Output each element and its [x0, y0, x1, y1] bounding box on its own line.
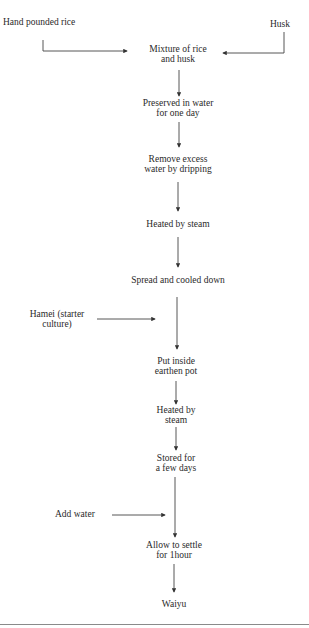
- step-heated2-line2: steam: [136, 415, 216, 425]
- step-mixture-line2: and husk: [128, 54, 228, 64]
- input-hand-pounded-rice: Hand pounded rice: [3, 17, 75, 27]
- step-mixture-line1: Mixture of rice: [128, 44, 228, 54]
- step-stored-line2: a few days: [136, 463, 216, 473]
- step-waiyu-line1: Waiyu: [144, 599, 204, 609]
- step-stored-line1: Stored for: [136, 453, 216, 463]
- step-heated-by-steam-1: Heated by steam: [118, 219, 238, 229]
- step-settle-line1: Allow to settle: [129, 540, 219, 550]
- step-put-inside-pot: Put inside earthen pot: [136, 356, 216, 376]
- step-spread-line1: Spread and cooled down: [113, 275, 243, 285]
- step-waiyu: Waiyu: [144, 599, 204, 609]
- step-remove-water: Remove excess water by dripping: [128, 154, 228, 174]
- arrow-husk-to-mixture: [223, 32, 284, 53]
- step-spread-cooled: Spread and cooled down: [113, 275, 243, 285]
- input-hamei-line2: culture): [22, 319, 92, 329]
- step-heated2-line1: Heated by: [136, 405, 216, 415]
- step-remove-water-line2: water by dripping: [128, 164, 228, 174]
- step-put-pot-line2: earthen pot: [136, 366, 216, 376]
- input-hamei-line1: Hamei (starter: [22, 309, 92, 319]
- step-allow-settle: Allow to settle for 1hour: [129, 540, 219, 560]
- step-put-pot-line1: Put inside: [136, 356, 216, 366]
- step-mixture: Mixture of rice and husk: [128, 44, 228, 64]
- step-settle-line2: for 1hour: [129, 550, 219, 560]
- step-remove-water-line1: Remove excess: [128, 154, 228, 164]
- input-add-water: Add water: [55, 509, 95, 519]
- step-heated-by-steam-2: Heated by steam: [136, 405, 216, 425]
- bottom-divider: [0, 624, 309, 625]
- step-preserved-line2: for one day: [128, 108, 228, 118]
- arrow-rice-to-mixture: [43, 40, 127, 51]
- step-preserved: Preserved in water for one day: [128, 98, 228, 118]
- step-stored: Stored for a few days: [136, 453, 216, 473]
- step-heated1-line1: Heated by steam: [118, 219, 238, 229]
- input-hamei: Hamei (starter culture): [22, 309, 92, 329]
- step-preserved-line1: Preserved in water: [128, 98, 228, 108]
- input-husk: Husk: [270, 19, 290, 29]
